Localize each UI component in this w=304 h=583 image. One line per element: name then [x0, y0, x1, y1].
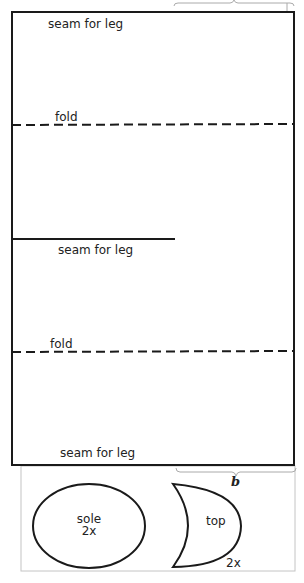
- fold-label-1: fold: [55, 110, 78, 124]
- sole-count: 2x: [69, 524, 109, 538]
- top-count: 2x: [226, 556, 241, 570]
- fold-label-2: fold: [50, 337, 73, 351]
- fold-line-2: [12, 351, 294, 352]
- bracket-label-b: b: [231, 474, 240, 489]
- top-bracket: [174, 0, 294, 6]
- top-label: top: [206, 514, 226, 528]
- seam-label-top: seam for leg: [48, 17, 123, 31]
- pattern-diagram: [0, 0, 304, 583]
- lower-frame: [21, 466, 295, 571]
- seam-label-middle: seam for leg: [58, 243, 133, 257]
- seam-label-bottom: seam for leg: [60, 446, 135, 460]
- fold-line-1: [12, 124, 294, 125]
